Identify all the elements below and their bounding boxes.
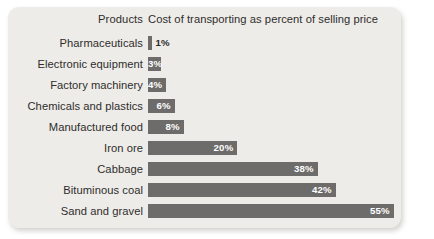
bar-value-label: 6% [148, 100, 171, 111]
category-label: Pharmaceuticals [8, 37, 143, 49]
bar-track: 3% [148, 56, 401, 74]
bar-value-label: 1% [155, 37, 169, 48]
bar-track: 8% [148, 119, 401, 137]
category-label: Electronic equipment [8, 58, 143, 70]
category-label: Manufactured food [8, 121, 143, 133]
category-label: Bituminous coal [8, 184, 143, 196]
category-label: Cabbage [8, 163, 143, 175]
bar-track: 1% [148, 35, 401, 53]
chart-card: Products Cost of transporting as percent… [8, 7, 401, 228]
bar-value-label: 42% [148, 184, 332, 195]
column-header-products: Products [8, 13, 143, 25]
bar-track: 6% [148, 98, 401, 116]
bar-track: 42% [148, 182, 401, 200]
chart-row: Electronic equipment3% [8, 56, 401, 74]
chart-row: Sand and gravel55% [8, 203, 401, 221]
bar [148, 36, 152, 50]
bar-track: 55% [148, 203, 401, 221]
chart-row: Bituminous coal42% [8, 182, 401, 200]
bar-chart: Products Cost of transporting as percent… [8, 7, 401, 228]
chart-row: Cabbage38% [8, 161, 401, 179]
bar-track: 4% [148, 77, 401, 95]
bar-value-label: 20% [148, 142, 233, 153]
bar-value-label: 38% [148, 163, 314, 174]
chart-row: Manufactured food8% [8, 119, 401, 137]
bar-value-label: 8% [148, 121, 180, 132]
bar-track: 38% [148, 161, 401, 179]
chart-row: Iron ore20% [8, 140, 401, 158]
category-label: Factory machinery [8, 79, 143, 91]
bar-value-label: 3% [148, 58, 157, 69]
chart-row: Factory machinery4% [8, 77, 401, 95]
column-header-cost: Cost of transporting as percent of selli… [148, 13, 378, 25]
chart-header-row: Products Cost of transporting as percent… [8, 13, 401, 29]
bar-value-label: 4% [148, 79, 162, 90]
category-label: Chemicals and plastics [8, 100, 143, 112]
category-label: Iron ore [8, 142, 143, 154]
chart-row: Chemicals and plastics6% [8, 98, 401, 116]
category-label: Sand and gravel [8, 205, 143, 217]
bar-value-label: 55% [148, 205, 390, 216]
bar-track: 20% [148, 140, 401, 158]
chart-row: Pharmaceuticals1% [8, 35, 401, 53]
